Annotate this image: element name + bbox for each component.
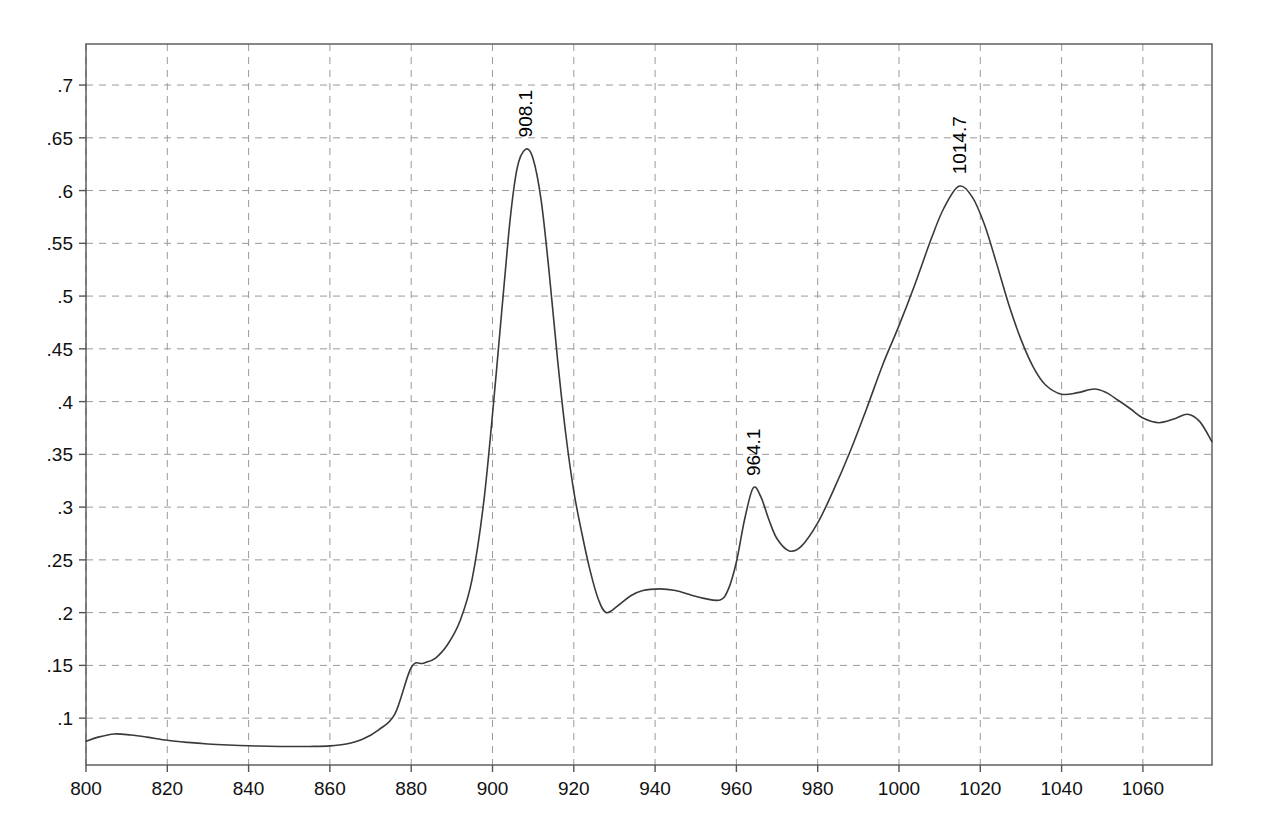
x-axis-tick-labels: 8008208408608809009209409609801000102010… (70, 778, 1164, 799)
x-tick-label: 1000 (878, 778, 920, 799)
y-tick-label: .35 (47, 444, 73, 465)
x-tick-label: 940 (639, 778, 671, 799)
peak-annotations: 908.1964.11014.7 (515, 90, 969, 476)
y-tick-label: .1 (57, 708, 73, 729)
x-tick-label: 880 (395, 778, 427, 799)
x-tick-label: 1040 (1040, 778, 1082, 799)
x-tick-label: 1060 (1122, 778, 1164, 799)
y-tick-label: .4 (57, 392, 73, 413)
y-tick-label: .2 (57, 603, 73, 624)
x-tick-label: 980 (802, 778, 834, 799)
x-tick-label: 920 (558, 778, 590, 799)
spectrum-plot: 8008208408608809009209409609801000102010… (0, 0, 1273, 827)
y-tick-label: .7 (57, 75, 73, 96)
x-tick-label: 800 (70, 778, 102, 799)
y-tick-label: .5 (57, 286, 73, 307)
series-line-spectrum (86, 149, 1212, 747)
y-tick-label: .65 (47, 128, 73, 149)
plot-frame (86, 44, 1212, 765)
y-tick-label: .6 (57, 181, 73, 202)
peak-label: 908.1 (515, 90, 536, 138)
gridlines (86, 44, 1212, 765)
peak-label: 964.1 (743, 429, 764, 477)
y-tick-label: .15 (47, 655, 73, 676)
y-tick-label: .45 (47, 339, 73, 360)
y-tick-label: .25 (47, 550, 73, 571)
x-tick-label: 900 (477, 778, 509, 799)
y-tick-label: .55 (47, 233, 73, 254)
data-series-line (86, 149, 1212, 747)
x-tick-label: 960 (721, 778, 753, 799)
chart-container: 8008208408608809009209409609801000102010… (0, 0, 1273, 827)
x-tick-label: 860 (314, 778, 346, 799)
x-tick-label: 1020 (959, 778, 1001, 799)
x-tick-label: 820 (151, 778, 183, 799)
x-tick-label: 840 (233, 778, 265, 799)
y-axis-tick-labels: .1.15.2.25.3.35.4.45.5.55.6.65.7 (47, 75, 74, 729)
axis-ticks (79, 85, 1143, 772)
peak-label: 1014.7 (949, 116, 970, 174)
y-tick-label: .3 (57, 497, 73, 518)
plot-border (86, 44, 1212, 765)
